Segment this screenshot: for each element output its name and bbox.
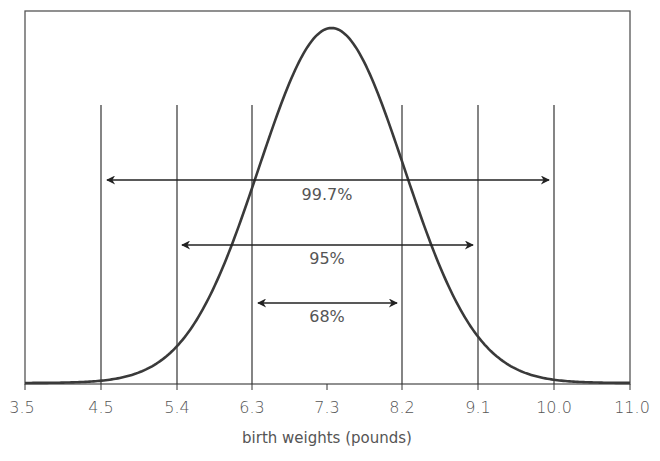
tick-label: 11.0 xyxy=(614,398,650,417)
interval-label-68: 68% xyxy=(309,307,345,326)
tick-label: 9.1 xyxy=(465,398,490,417)
tick-label: 7.3 xyxy=(314,398,339,417)
tick-label: 10.0 xyxy=(536,398,572,417)
tick-label: 5.4 xyxy=(164,398,189,417)
tick-label: 3.5 xyxy=(9,398,34,417)
interval-label-95: 95% xyxy=(309,249,345,268)
tick-label: 8.2 xyxy=(389,398,414,417)
x-axis-ticks xyxy=(25,384,630,390)
tick-label: 4.5 xyxy=(88,398,113,417)
normal-distribution-chart: 99.7% 95% 68% 3.5 4.5 5.4 6.3 7.3 8.2 9.… xyxy=(0,0,660,461)
normal-curve xyxy=(25,28,630,383)
x-axis-label: birth weights (pounds) xyxy=(242,429,412,447)
interval-label-99-7: 99.7% xyxy=(302,185,353,204)
tick-label: 6.3 xyxy=(239,398,264,417)
x-axis-tick-labels: 3.5 4.5 5.4 6.3 7.3 8.2 9.1 10.0 11.0 xyxy=(9,398,650,417)
